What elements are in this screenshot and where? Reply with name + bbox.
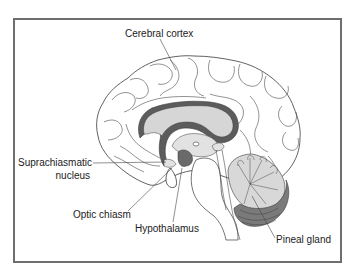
label-cerebral-cortex: Cerebral cortex: [125, 28, 193, 39]
label-pineal-gland: Pineal gland: [276, 234, 331, 245]
interthalamic-adhesion: [193, 142, 199, 146]
label-hypothalamus: Hypothalamus: [135, 223, 199, 234]
label-optic-chiasm: Optic chiasm: [73, 209, 131, 220]
brain-diagram: Cerebral cortex Suprachiasmatic nucleus …: [0, 0, 353, 275]
label-suprachiasmatic: Suprachiasmatic: [18, 157, 92, 168]
label-nucleus: nucleus: [56, 170, 90, 181]
